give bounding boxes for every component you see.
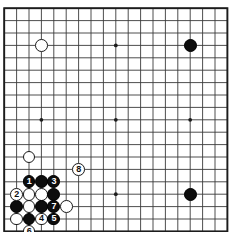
stone-white[interactable] [23, 151, 36, 164]
move-number-label: 1 [27, 177, 32, 186]
move-number-label: 6 [27, 227, 32, 232]
stone-white[interactable] [23, 188, 36, 201]
move-number-label: 3 [51, 177, 56, 186]
stone-black[interactable] [35, 175, 48, 188]
stone-black[interactable] [23, 213, 36, 226]
move-stone-3[interactable]: 3 [47, 175, 60, 188]
stone-white[interactable] [35, 188, 48, 201]
move-number-label: 8 [76, 165, 81, 174]
stone-black[interactable] [184, 188, 197, 201]
move-number-label: 7 [51, 202, 56, 211]
stone-white[interactable] [10, 213, 23, 226]
stone-black[interactable] [47, 188, 60, 201]
move-stone-7[interactable]: 7 [47, 200, 60, 213]
move-number-label: 4 [39, 214, 44, 223]
stone-white[interactable] [35, 39, 48, 52]
move-stone-1[interactable]: 1 [23, 175, 36, 188]
stone-white[interactable] [23, 200, 36, 213]
stone-black[interactable] [10, 200, 23, 213]
goban[interactable]: 13274568 [0, 0, 232, 232]
stone-black[interactable] [184, 39, 197, 52]
move-stone-5[interactable]: 5 [47, 213, 60, 226]
go-board-diagram: 13274568 [0, 0, 232, 232]
move-number-label: 5 [51, 214, 56, 223]
move-number-label: 2 [14, 190, 19, 199]
stone-black[interactable] [35, 200, 48, 213]
move-stone-6[interactable]: 6 [23, 225, 36, 232]
stone-layer: 13274568 [0, 0, 232, 232]
move-stone-4[interactable]: 4 [35, 213, 48, 226]
move-stone-8[interactable]: 8 [72, 163, 85, 176]
move-stone-2[interactable]: 2 [10, 188, 23, 201]
stone-white[interactable] [60, 200, 73, 213]
